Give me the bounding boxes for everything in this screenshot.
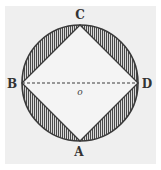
- point-label-d: D: [142, 78, 152, 90]
- center-label-o: o: [77, 88, 82, 97]
- point-label-b: B: [7, 78, 17, 90]
- point-label-a: A: [74, 146, 83, 158]
- point-label-c: C: [75, 9, 85, 21]
